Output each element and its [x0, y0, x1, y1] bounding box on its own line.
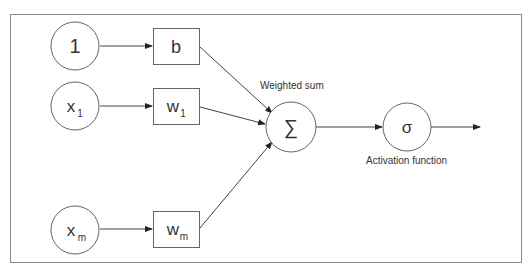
- input-node-x1: x 1: [51, 82, 99, 130]
- weight-box-b: b: [154, 29, 200, 65]
- svg-text:m: m: [180, 231, 188, 242]
- svg-text:∑: ∑: [284, 116, 298, 139]
- activation-function-caption: Activation function: [366, 155, 447, 166]
- weight-box-w1: w 1: [154, 89, 200, 125]
- svg-text:1: 1: [77, 108, 83, 119]
- svg-text:1: 1: [180, 108, 186, 119]
- svg-text:w: w: [166, 220, 180, 239]
- arrow-wm-to-sum: [200, 142, 272, 228]
- svg-text:m: m: [78, 232, 86, 243]
- input-node-bias: 1: [51, 22, 99, 70]
- svg-text:σ: σ: [402, 118, 413, 137]
- svg-text:1: 1: [69, 35, 80, 57]
- activation-node: σ: [383, 103, 431, 151]
- svg-text:w: w: [166, 97, 180, 116]
- svg-text:b: b: [171, 37, 181, 57]
- perceptron-diagram: 1 x 1 x m b w 1 w m ∑ Weighted sum: [0, 0, 532, 271]
- arrow-w1-to-sum: [200, 107, 265, 124]
- svg-text:x: x: [67, 221, 76, 240]
- input-node-xm: x m: [51, 206, 99, 254]
- svg-text:x: x: [67, 97, 76, 116]
- weight-box-wm: w m: [154, 212, 200, 248]
- sum-node: ∑: [266, 102, 316, 152]
- weighted-sum-caption: Weighted sum: [260, 80, 324, 91]
